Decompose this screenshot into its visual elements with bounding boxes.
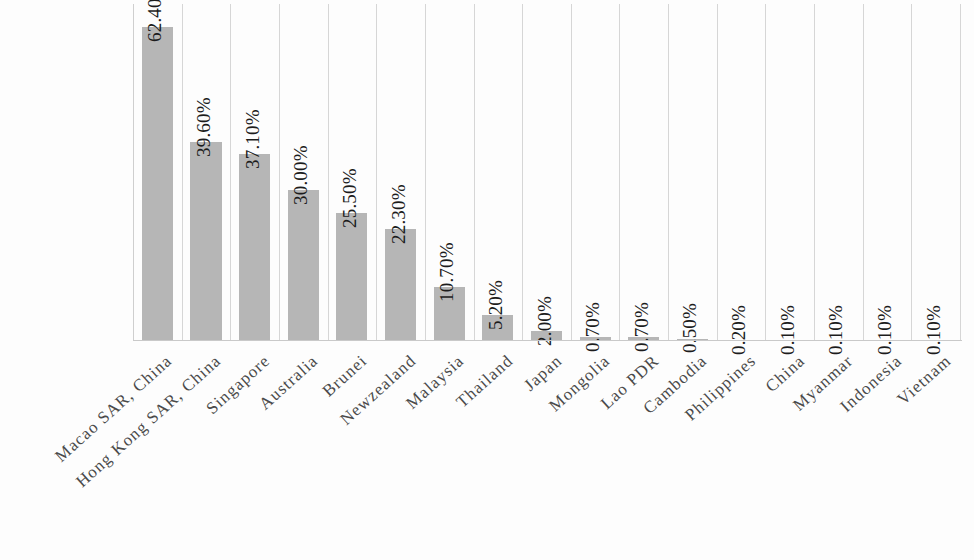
chart-page: 62.40%39.60%37.10%30.00%25.50%22.30%10.7…	[0, 0, 974, 560]
bar-slot	[765, 4, 814, 341]
bar[interactable]	[288, 190, 319, 341]
bar-value-label: 37.10%	[242, 110, 264, 170]
bar-value-label: 5.20%	[485, 280, 507, 330]
bar-slot	[717, 4, 766, 341]
category-label: Vietnam	[893, 351, 955, 410]
bar[interactable]	[385, 229, 416, 341]
bar-slot	[571, 4, 620, 341]
bar[interactable]	[336, 213, 367, 341]
bar-value-label: 25.50%	[339, 168, 361, 228]
bar-slot	[133, 4, 182, 341]
bar-slot	[911, 4, 960, 341]
bar-slot	[376, 4, 425, 341]
bar-value-label: 22.30%	[388, 184, 410, 244]
bar-value-label: 62.40%	[144, 0, 166, 42]
gridline	[960, 4, 961, 341]
bar-value-label: 30.00%	[290, 145, 312, 205]
bar[interactable]	[190, 142, 221, 341]
bar-slot	[619, 4, 668, 341]
category-labels-layer: Macao SAR, ChinaHong Kong SAR, ChinaSing…	[0, 341, 974, 560]
bar-slot	[522, 4, 571, 341]
bar-slot	[230, 4, 279, 341]
plot-area: 62.40%39.60%37.10%30.00%25.50%22.30%10.7…	[133, 4, 960, 341]
bar-slot	[863, 4, 912, 341]
bar-slot	[668, 4, 717, 341]
bar-value-label: 10.70%	[436, 242, 458, 302]
bar[interactable]	[239, 154, 270, 341]
bar-value-label: 2.00%	[534, 296, 556, 346]
bar-slot	[182, 4, 231, 341]
bar[interactable]	[142, 27, 173, 341]
bar-slot	[814, 4, 863, 341]
bar-value-label: 39.60%	[193, 97, 215, 157]
